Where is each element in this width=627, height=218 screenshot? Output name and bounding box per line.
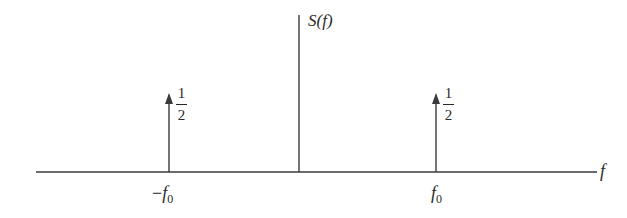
y-axis-label-text: S(f): [308, 11, 333, 30]
impulse-pos-f0-weight: 1 2: [443, 86, 454, 123]
weight-numerator: 1: [445, 86, 453, 101]
neg-f0-label: −f0: [152, 184, 173, 205]
pos-f0-label: f0: [431, 184, 442, 205]
spectrum-diagram: S(f) f 1 2 1 2 −f0 f0: [0, 0, 627, 218]
pos-f0-sub: 0: [436, 192, 442, 206]
fraction-bar: [443, 104, 454, 105]
weight-denominator: 2: [445, 108, 453, 123]
diagram-lines: [0, 0, 627, 218]
impulse-pos-f0-arrowhead: [432, 93, 440, 104]
impulse-neg-f0-arrowhead: [165, 93, 173, 104]
neg-f0-sign: −: [152, 183, 162, 203]
x-axis-label: f: [600, 162, 605, 180]
impulse-neg-f0-weight: 1 2: [176, 86, 187, 123]
y-axis-label: S(f): [308, 12, 333, 29]
weight-numerator: 1: [178, 86, 186, 101]
fraction-bar: [176, 104, 187, 105]
weight-denominator: 2: [178, 108, 186, 123]
neg-f0-sub: 0: [167, 192, 173, 206]
